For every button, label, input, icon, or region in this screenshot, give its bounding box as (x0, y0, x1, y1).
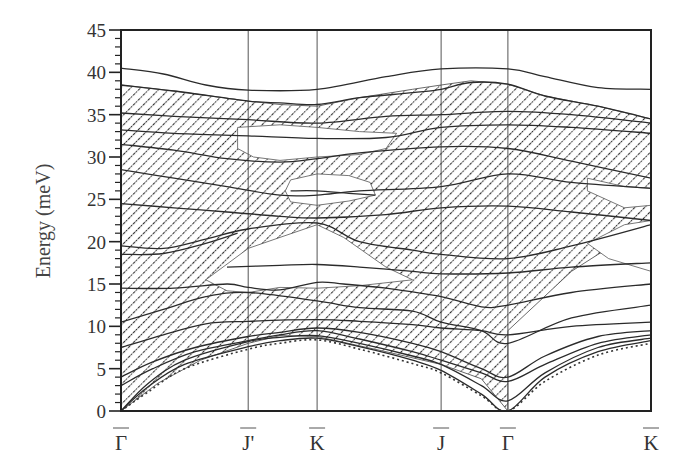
y-axis-title: Energy (meV) (32, 164, 55, 279)
phonon-dispersion-chart: 051015202530354045 ΓJ'KJΓK Energy (meV) (0, 0, 689, 473)
kpoint-label: Γ (500, 428, 516, 455)
y-tick-label: 35 (87, 105, 106, 126)
kpoint-label: J' (240, 428, 256, 455)
y-axis-ticks: 051015202530354045 (87, 20, 121, 422)
kpoint-label: J (433, 428, 449, 455)
kpoint-text: J' (242, 431, 254, 455)
kpoint-text: K (643, 431, 658, 455)
kpoint-text: J (437, 431, 445, 455)
y-tick-label: 15 (87, 274, 106, 295)
y-tick-label: 30 (87, 147, 106, 168)
y-tick-label: 10 (87, 316, 106, 337)
x-axis-kpoint-labels: ΓJ'KJΓK (113, 428, 659, 455)
y-tick-label: 0 (97, 401, 107, 422)
kpoint-text: K (310, 431, 325, 455)
kpoint-label: K (309, 428, 325, 455)
top-branch-40meV (121, 68, 651, 91)
y-tick-label: 45 (87, 20, 106, 41)
y-tick-label: 40 (87, 62, 106, 83)
y-tick-label: 5 (97, 359, 107, 380)
kpoint-text: Γ (115, 431, 127, 455)
kpoint-label: Γ (113, 428, 129, 455)
y-tick-label: 20 (87, 232, 106, 253)
kpoint-text: Γ (502, 431, 514, 455)
kpoint-label: K (643, 428, 659, 455)
y-tick-label: 25 (87, 189, 106, 210)
